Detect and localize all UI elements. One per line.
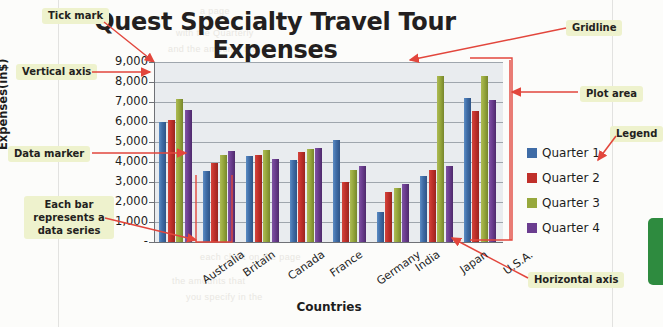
bar-fill — [298, 152, 305, 242]
bar-data-marker[interactable] — [290, 160, 297, 242]
bar-data-marker[interactable] — [402, 184, 409, 242]
y-axis-tick-label: 5,000 — [100, 134, 148, 148]
y-axis-tick-mark — [149, 182, 155, 183]
y-axis-tick-mark — [149, 202, 155, 203]
bar-fill — [246, 156, 253, 242]
bar-data-marker[interactable] — [168, 120, 175, 242]
bar-data-marker[interactable] — [307, 149, 314, 242]
bar-group — [329, 62, 373, 242]
bar-data-marker[interactable] — [315, 148, 322, 242]
callout-each-bar-series: Each bar represents a data series — [24, 196, 114, 239]
bar-fill — [402, 184, 409, 242]
y-axis-tick-label: 4,000 — [100, 154, 148, 168]
bar-fill — [437, 76, 444, 242]
legend-swatch-icon — [527, 223, 537, 233]
y-axis-tick-mark — [149, 102, 155, 103]
bar-fill — [350, 170, 357, 242]
bar-fill — [377, 212, 384, 242]
legend-swatch-icon — [527, 198, 537, 208]
bar-fill — [307, 149, 314, 242]
bar-fill — [185, 110, 192, 242]
bar-data-marker[interactable] — [176, 99, 183, 242]
bar-data-marker[interactable] — [377, 212, 384, 242]
bar-fill — [315, 148, 322, 242]
bar-data-marker[interactable] — [203, 171, 210, 242]
bar-fill — [263, 150, 270, 242]
bar-fill — [168, 120, 175, 242]
bar-fill — [176, 99, 183, 242]
bar-data-marker[interactable] — [246, 156, 253, 242]
bar-group — [373, 62, 417, 242]
bar-fill — [220, 155, 227, 242]
bar-data-marker[interactable] — [342, 182, 349, 242]
bar-data-marker[interactable] — [263, 150, 270, 242]
y-axis-tick-label: 9,000 — [100, 54, 148, 68]
callout-horizontal-axis: Horizontal axis — [528, 272, 624, 288]
chart-legend: Quarter 1Quarter 2Quarter 3Quarter 4 — [527, 140, 600, 240]
bar-data-marker[interactable] — [464, 98, 471, 242]
y-axis-tick-mark — [149, 82, 155, 83]
y-axis-tick-mark — [149, 222, 155, 223]
y-axis-tick-mark — [149, 122, 155, 123]
callout-data-marker: Data marker — [8, 146, 90, 162]
bar-fill — [472, 111, 479, 242]
bar-fill — [290, 160, 297, 242]
y-axis-title: Expenses(in$) — [0, 58, 10, 150]
bar-fill — [333, 140, 340, 242]
callout-plot-area: Plot area — [580, 86, 643, 102]
bar-data-marker[interactable] — [220, 155, 227, 242]
bar-data-marker[interactable] — [185, 110, 192, 242]
bar-data-marker[interactable] — [429, 170, 436, 242]
legend-item[interactable]: Quarter 3 — [527, 190, 600, 215]
bar-data-marker[interactable] — [394, 188, 401, 242]
bar-data-marker[interactable] — [298, 152, 305, 242]
horizontal-axis-line — [154, 242, 503, 243]
bar-group — [199, 62, 243, 242]
bar-fill — [203, 171, 210, 242]
bar-fill — [394, 188, 401, 242]
bar-data-marker[interactable] — [446, 166, 453, 242]
y-axis-tick-mark — [149, 142, 155, 143]
bar-fill — [489, 100, 496, 242]
bar-data-marker[interactable] — [272, 159, 279, 242]
bar-data-marker[interactable] — [437, 76, 444, 242]
bar-data-marker[interactable] — [333, 140, 340, 242]
bar-fill — [211, 163, 218, 242]
bar-data-marker[interactable] — [472, 111, 479, 242]
bar-data-marker[interactable] — [228, 151, 235, 242]
bar-group — [460, 62, 504, 242]
legend-label: Quarter 4 — [542, 221, 600, 235]
bar-data-marker[interactable] — [420, 176, 427, 242]
bar-group — [155, 62, 199, 242]
y-axis-tick-mark — [149, 242, 155, 243]
bar-data-marker[interactable] — [350, 170, 357, 242]
bar-data-marker[interactable] — [359, 166, 366, 242]
bar-fill — [359, 166, 366, 242]
bar-series-container — [155, 62, 503, 242]
bar-fill — [159, 122, 166, 242]
legend-item[interactable]: Quarter 1 — [527, 140, 600, 165]
y-axis-tick-label: 7,000 — [100, 94, 148, 108]
y-axis-tick-mark — [149, 162, 155, 163]
bar-data-marker[interactable] — [481, 76, 488, 242]
bar-group — [242, 62, 286, 242]
callout-legend: Legend — [610, 126, 663, 142]
callout-vertical-axis: Vertical axis — [16, 64, 97, 80]
bar-fill — [420, 176, 427, 242]
bar-fill — [481, 76, 488, 242]
legend-label: Quarter 2 — [542, 171, 600, 185]
bar-fill — [228, 151, 235, 242]
bar-fill — [446, 166, 453, 242]
bar-data-marker[interactable] — [159, 122, 166, 242]
y-axis-tick-mark — [149, 62, 155, 63]
bar-data-marker[interactable] — [255, 155, 262, 242]
bar-data-marker[interactable] — [211, 163, 218, 242]
bar-fill — [342, 182, 349, 242]
legend-item[interactable]: Quarter 2 — [527, 165, 600, 190]
callout-tick-mark: Tick mark — [42, 8, 109, 24]
bar-data-marker[interactable] — [489, 100, 496, 242]
bar-data-marker[interactable] — [385, 192, 392, 242]
legend-item[interactable]: Quarter 4 — [527, 215, 600, 240]
legend-swatch-icon — [527, 173, 537, 183]
legend-label: Quarter 3 — [542, 196, 600, 210]
